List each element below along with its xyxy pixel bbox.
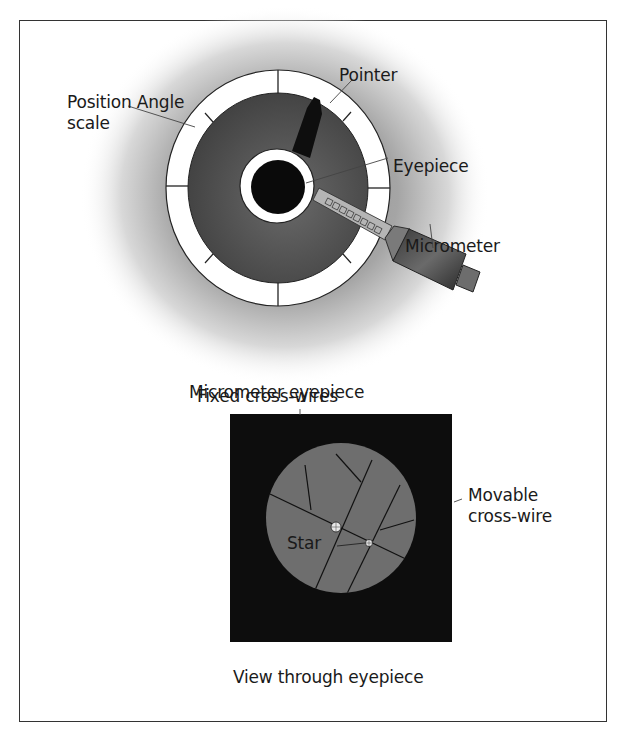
label-position-angle-scale-line2: scale	[67, 113, 110, 134]
label-position-angle-scale-line1: Position Angle	[67, 92, 184, 113]
eyepiece-view	[230, 414, 452, 642]
eyepiece-icon	[251, 160, 305, 214]
label-eyepiece: Eyepiece	[393, 156, 468, 177]
label-fixed-cross-wires: Fixed cross-wires	[197, 386, 338, 407]
label-movable-cross-wire-line2: cross-wire	[468, 506, 552, 527]
label-movable-cross-wire-line1: Movable	[468, 485, 538, 506]
field-of-view	[266, 443, 416, 593]
label-view-through-eyepiece: View through eyepiece	[233, 667, 424, 688]
label-pointer: Pointer	[339, 65, 397, 86]
label-micrometer: Micrometer	[405, 236, 500, 257]
label-star: Star	[287, 533, 321, 554]
